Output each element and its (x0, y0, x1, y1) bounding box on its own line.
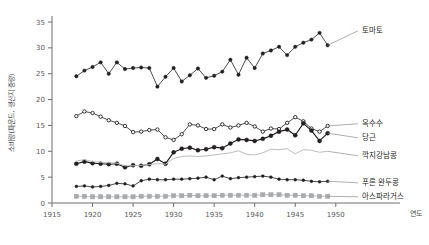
series-marker-2 (245, 138, 249, 142)
series-marker-5 (196, 194, 200, 198)
series-marker-4 (140, 179, 143, 182)
series-marker-1 (221, 123, 224, 126)
series-marker-0 (131, 66, 134, 69)
series-marker-5 (180, 194, 184, 198)
series-marker-2 (204, 147, 208, 151)
series-marker-5 (82, 194, 86, 198)
series-marker-1 (131, 130, 134, 133)
series-end-label-0: 토마토 (362, 26, 383, 35)
series-marker-4 (237, 176, 240, 179)
series-marker-4 (278, 178, 281, 181)
series-marker-2 (261, 137, 265, 141)
series-marker-2 (318, 139, 322, 143)
series-marker-1 (91, 111, 94, 114)
series-line-0 (76, 33, 327, 87)
series-marker-5 (220, 193, 224, 197)
series-marker-5 (228, 193, 232, 197)
series-marker-0 (269, 49, 272, 52)
series-end-label-2: 당근 (362, 132, 376, 142)
y-tick-label: 0 (41, 200, 45, 208)
series-marker-1 (164, 136, 167, 139)
series-marker-4 (221, 175, 224, 178)
x-tick-label: 1940 (246, 211, 264, 219)
series-marker-0 (148, 66, 151, 69)
series-marker-1 (294, 115, 297, 118)
series-marker-2 (301, 121, 305, 125)
series-marker-5 (269, 193, 273, 197)
series-end-label-5: 아스파라거스 (362, 191, 404, 201)
x-tick-label: 1920 (84, 211, 102, 219)
series-marker-1 (245, 121, 248, 124)
series-marker-2 (285, 128, 289, 132)
series-marker-4 (75, 185, 78, 188)
series-marker-4 (172, 178, 175, 181)
x-tick-label: 1945 (286, 211, 304, 219)
series-marker-0 (139, 66, 142, 69)
series-marker-1 (237, 124, 240, 127)
series-marker-4 (318, 180, 321, 183)
series-marker-0 (318, 31, 321, 34)
series-marker-5 (253, 193, 257, 197)
y-tick-label: 35 (36, 19, 45, 27)
series-marker-4 (107, 184, 110, 187)
x-tick-label: 1915 (43, 211, 61, 219)
series-marker-2 (277, 130, 281, 134)
y-tick-label: 20 (36, 96, 45, 104)
series-marker-1 (196, 124, 199, 127)
series-marker-5 (131, 195, 135, 199)
series-marker-1 (115, 121, 118, 124)
series-marker-0 (229, 58, 232, 61)
series-marker-1 (229, 126, 232, 129)
x-axis-title: 연도 (410, 210, 423, 218)
series-marker-1 (285, 121, 288, 124)
series-marker-2 (220, 146, 224, 150)
series-marker-4 (91, 186, 94, 189)
series-marker-4 (294, 178, 297, 181)
series-leader-0 (328, 31, 358, 46)
series-marker-2 (253, 139, 257, 143)
series-marker-2 (74, 162, 78, 166)
series-marker-5 (147, 194, 151, 198)
series-marker-2 (293, 133, 297, 137)
series-marker-4 (286, 178, 289, 181)
series-marker-4 (310, 180, 313, 183)
series-marker-0 (302, 41, 305, 44)
series-marker-0 (188, 74, 191, 77)
series-marker-5 (293, 193, 297, 197)
series-marker-4 (253, 175, 256, 178)
series-marker-1 (180, 133, 183, 136)
series-marker-0 (204, 76, 207, 79)
series-marker-5 (301, 194, 305, 198)
series-marker-4 (302, 179, 305, 182)
series-marker-1 (269, 127, 272, 130)
series-marker-5 (99, 195, 103, 199)
x-tick-label: 1925 (124, 211, 142, 219)
series-marker-0 (261, 52, 264, 55)
series-marker-5 (212, 194, 216, 198)
series-end-label-1: 옥수수 (362, 119, 383, 128)
series-marker-1 (107, 119, 110, 122)
series-marker-2 (180, 147, 184, 151)
series-marker-4 (188, 177, 191, 180)
series-marker-1 (172, 138, 175, 141)
series-marker-2 (188, 146, 192, 150)
series-leader-2 (328, 133, 358, 138)
series-marker-1 (75, 114, 78, 117)
series-marker-0 (91, 65, 94, 68)
series-marker-5 (277, 193, 281, 197)
series-marker-1 (123, 124, 126, 127)
series-marker-4 (148, 178, 151, 181)
series-marker-5 (123, 195, 127, 199)
series-marker-0 (115, 61, 118, 64)
series-marker-5 (163, 194, 167, 198)
series-marker-0 (123, 67, 126, 70)
series-marker-1 (139, 130, 142, 133)
series-marker-5 (107, 195, 111, 199)
x-tick-label: 1935 (205, 211, 223, 219)
series-marker-1 (261, 130, 264, 133)
series-marker-4 (115, 182, 118, 185)
series-marker-1 (188, 123, 191, 126)
y-tick-label: 10 (36, 148, 45, 156)
series-end-label-4: 푸른 완두콩 (362, 178, 399, 187)
series-marker-2 (269, 134, 273, 138)
